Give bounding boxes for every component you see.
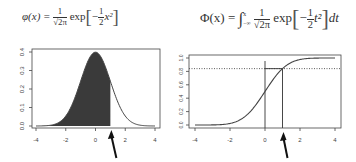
y-tick-label: 0.4 xyxy=(19,47,25,56)
arrow-shaft xyxy=(284,138,288,158)
y-tick-label: 0.2 xyxy=(178,108,184,115)
x-tick-label: 0 xyxy=(263,137,267,143)
charts-canvas: -4-20240.00.10.20.30.4 -4-20240.00.20.40… xyxy=(0,0,356,162)
arrow-head xyxy=(108,130,115,139)
y-tick-label: 1.0 xyxy=(178,54,184,61)
y-tick-label: 0.1 xyxy=(19,103,25,112)
x-tick-label: 4 xyxy=(333,137,337,143)
shaded-area xyxy=(36,52,110,126)
arrow-shaft xyxy=(111,136,116,158)
y-tick-label: 0.4 xyxy=(178,95,184,102)
y-tick-label: 0.0 xyxy=(178,121,184,128)
x-tick-label: -4 xyxy=(192,137,198,143)
x-tick-label: -2 xyxy=(63,137,69,143)
y-tick-label: 0.8 xyxy=(178,68,184,75)
x-tick-label: -4 xyxy=(33,137,39,143)
y-tick-label: 0.0 xyxy=(19,121,25,130)
x-tick-label: 0 xyxy=(94,137,98,143)
cdf-chart: -4-20240.00.20.40.60.81.0 xyxy=(178,54,341,158)
pdf-chart: -4-20240.00.10.20.30.4 xyxy=(19,47,160,158)
x-tick-label: 2 xyxy=(298,137,302,143)
y-tick-label: 0.2 xyxy=(19,84,25,93)
x-tick-label: 2 xyxy=(124,137,128,143)
y-tick-label: 0.6 xyxy=(178,81,184,88)
x-tick-label: 4 xyxy=(153,137,157,143)
y-tick-label: 0.3 xyxy=(19,66,25,75)
x-tick-label: -2 xyxy=(227,137,233,143)
arrow-head xyxy=(280,132,287,141)
